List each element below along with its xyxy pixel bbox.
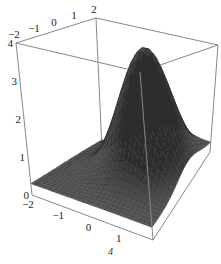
tick-label: 2	[91, 3, 97, 15]
tick-label: 1	[20, 151, 26, 163]
tick-label: 0	[51, 16, 57, 28]
tick-label: 1	[71, 9, 77, 21]
tick-label: 3	[12, 75, 18, 87]
tick-label: 1	[116, 232, 122, 244]
tick-label: −1	[52, 209, 64, 221]
tick-label: 4	[8, 37, 14, 49]
tick-label: −1	[28, 22, 40, 34]
surface-plot-3d: −2−1012−2−101201234	[0, 0, 221, 246]
surface-mesh	[31, 48, 211, 228]
tick-label: 2	[16, 113, 22, 125]
tick-label: 0	[24, 189, 30, 201]
tick-label: 0	[86, 221, 92, 233]
figure-caption: 4	[0, 246, 221, 257]
